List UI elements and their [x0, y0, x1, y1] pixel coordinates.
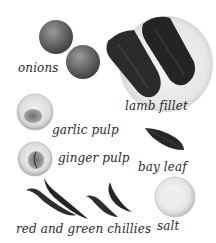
bay-leaf-image: [145, 128, 184, 150]
ginger-pulp-label: ginger pulp: [58, 152, 130, 164]
chillies-label: red and green chillies: [16, 223, 151, 235]
chillies-image: [26, 178, 132, 219]
ingredients-illustration: onions lamb fillet garlic pulp ginger pu…: [0, 0, 216, 243]
salt-label: salt: [157, 220, 179, 232]
lamb-fillet-label: lamb fillet: [125, 100, 188, 112]
onions-label: onions: [18, 62, 59, 74]
lamb-fillet-image: [106, 16, 213, 112]
garlic-pulp-image: [17, 94, 53, 130]
garlic-pulp-label: garlic pulp: [52, 124, 119, 136]
ingredients-artwork: [0, 0, 216, 243]
ginger-pulp-image: [18, 142, 52, 176]
bay-leaf-label: bay leaf: [138, 161, 187, 173]
salt-image: [155, 177, 195, 217]
